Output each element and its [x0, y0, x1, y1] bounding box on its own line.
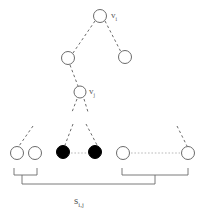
edge-root-to-mid-right [105, 21, 121, 52]
edge-root-to-mid-left [73, 21, 95, 53]
leaf-2 [29, 147, 42, 160]
leaf-edges [19, 99, 187, 146]
leaf-edge-to-leaf-4 [86, 124, 97, 145]
leaf-6 [182, 147, 195, 160]
diagram-svg [0, 0, 203, 220]
bracket-left-group [14, 168, 37, 175]
label-inner-vj: vj [89, 86, 95, 98]
leaf-edge-vj-down-left [72, 99, 77, 112]
leaf-4 [89, 146, 102, 159]
leaf-edge-to-leaf-1 [19, 126, 33, 146]
node-root-vi [94, 10, 107, 23]
tree-nodes [62, 10, 132, 99]
leaf-3 [57, 146, 70, 159]
node-inner-vj [74, 86, 86, 98]
leaf-5 [117, 147, 130, 160]
label-bracket-sij: si,j [74, 194, 84, 208]
leaf-nodes [11, 146, 195, 160]
tree-edges [70, 21, 121, 86]
figure-canvas: vi vj si,j [0, 0, 203, 220]
leaf-1 [11, 147, 24, 160]
node-mid-right [119, 51, 132, 64]
label-root-vi: vi [111, 10, 117, 22]
leaf-edge-vj-down-right [84, 99, 88, 112]
leaf-edge-to-leaf-3 [65, 124, 73, 145]
label-bracket-sij-sub: i,j [78, 201, 84, 208]
label-root-vi-sub: i [116, 16, 118, 22]
bracket-span-sij [22, 175, 155, 184]
bracket-right-group [122, 168, 188, 175]
leaf-edge-to-leaf-6 [177, 126, 187, 146]
edge-mid-left-to-vj [70, 65, 78, 86]
node-mid-left [62, 52, 75, 65]
brackets [14, 168, 188, 184]
label-inner-vj-sub: j [94, 92, 96, 98]
